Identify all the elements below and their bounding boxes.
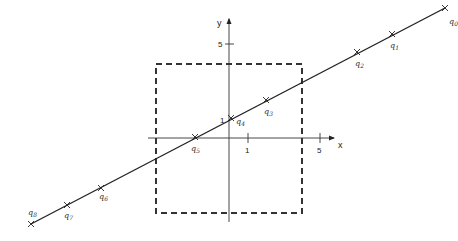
x-axis-label: x: [338, 140, 343, 150]
y-tick-5: 5: [218, 40, 234, 49]
point-q1-label: q1: [390, 41, 399, 51]
point-q8-label: q8: [28, 208, 37, 218]
x-tick-label-1: 1: [245, 146, 250, 155]
point-q2-label: q2: [355, 59, 364, 69]
point-q6-label: q6: [99, 192, 108, 202]
sampled-line: [31, 8, 445, 224]
line-sampling-diagram: x y 1 5 5 1 q0 q1 q2 q3 q4 q5 q6 q7 q8: [0, 0, 458, 241]
point-q5-label: q5: [191, 144, 200, 154]
point-q3-label: q3: [264, 107, 273, 117]
y-tick-label-5: 5: [218, 40, 223, 49]
x-tick-label-5: 5: [317, 146, 322, 155]
x-tick-1: 1: [245, 133, 250, 155]
point-q7-marker: [64, 202, 70, 208]
point-q8-marker: [28, 221, 34, 227]
point-q0-marker: [442, 5, 448, 11]
y-axis-label: y: [217, 18, 222, 28]
point-q4-label: q4: [236, 117, 245, 127]
point-q0-label: q0: [449, 17, 458, 27]
x-tick-5: 5: [317, 133, 322, 155]
point-q7-label: q7: [64, 211, 73, 221]
